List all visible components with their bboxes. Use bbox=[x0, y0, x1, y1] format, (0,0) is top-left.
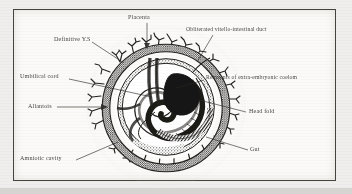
label-umbilical-cord: Umbilical cord bbox=[20, 73, 59, 80]
label-head-fold: Head fold bbox=[249, 108, 275, 115]
label-remnants-of-extra-embryonic-coelom: Remnants of extra-embryonic coelom bbox=[206, 74, 297, 81]
page-bottom-margin bbox=[0, 188, 352, 194]
label-gut: Gut bbox=[250, 146, 260, 153]
embryo-drawing-group bbox=[57, 23, 248, 186]
label-obliterated-vitello-intestinal-duct: Obliterated vitello-intestinal duct bbox=[186, 26, 267, 33]
label-definitive-ys: Definitive Y.S bbox=[54, 36, 91, 43]
label-placenta: Placenta bbox=[128, 14, 150, 21]
embryo-diagram bbox=[0, 0, 352, 194]
label-amniotic-cavity: Amniotic cavity bbox=[20, 155, 62, 162]
label-allantois: Allantois bbox=[28, 103, 52, 110]
figure-root: Placenta Definitive Y.S Obliterated vite… bbox=[0, 0, 352, 194]
